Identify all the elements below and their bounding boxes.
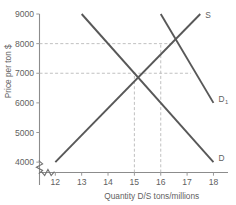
y-tick-label-9000: 9000	[15, 9, 34, 19]
supply-demand-chart: 400050006000700080009000 12131415161718 …	[0, 0, 236, 205]
x-tick-label-14: 14	[103, 177, 113, 187]
x-tick-label-16: 16	[156, 177, 166, 187]
y-tick-label-8000: 8000	[15, 39, 34, 49]
x-axis-ticks-group: 12131415161718	[51, 173, 219, 187]
curve-s	[55, 14, 200, 162]
x-tick-label-12: 12	[51, 177, 61, 187]
x-tick-label-18: 18	[209, 177, 219, 187]
y-tick-label-4000: 4000	[15, 157, 34, 167]
guide-lines-group	[40, 44, 192, 173]
y-tick-label-7000: 7000	[15, 68, 34, 78]
y-axis-ticks-group: 400050006000700080009000	[15, 9, 40, 167]
curve-label-subscript: 1	[225, 99, 228, 105]
curve-d	[82, 14, 214, 162]
y-tick-label-5000: 5000	[15, 128, 34, 138]
x-axis-title: Quantity D/S tons/millions	[104, 191, 199, 201]
axes-group	[36, 14, 228, 185]
chart-canvas: 400050006000700080009000 12131415161718 …	[0, 0, 236, 205]
x-tick-label-13: 13	[77, 177, 87, 187]
curve-labels-group: SDD1	[205, 10, 228, 163]
curve-label-d1: D1	[218, 94, 228, 105]
x-tick-label-17: 17	[182, 177, 192, 187]
x-tick-label-15: 15	[130, 177, 140, 187]
curve-label-s: S	[205, 10, 211, 20]
y-tick-label-6000: 6000	[15, 98, 34, 108]
curve-label-d: D	[218, 153, 224, 163]
y-axis-title: Price per ton $	[3, 44, 13, 98]
